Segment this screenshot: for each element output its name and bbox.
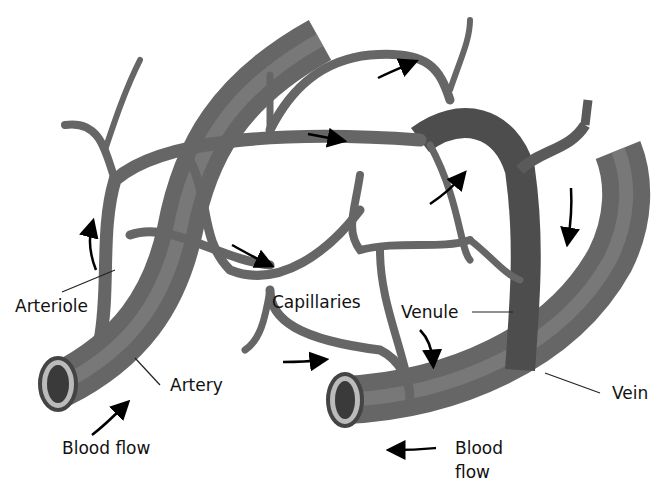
vessel-illustration: [0, 0, 664, 494]
label-vein: Vein: [612, 383, 648, 403]
arrow-arteriole-up: [90, 225, 96, 270]
label-blood-flow-left: Blood flow: [62, 438, 150, 458]
arrow-vein-down: [568, 188, 571, 240]
arrow-flow-out: [393, 448, 436, 450]
label-arteriole: Arteriole: [15, 296, 88, 316]
label-venule: Venule: [401, 302, 459, 322]
label-blood-flow-right-1: Blood: [455, 438, 503, 458]
label-capillaries: Capillaries: [272, 292, 361, 312]
label-artery: Artery: [170, 375, 223, 395]
vein: [328, 150, 626, 426]
label-blood-flow-right-2: flow: [455, 462, 490, 482]
arrow-bottom-right: [283, 360, 322, 362]
arrow-top-right: [378, 63, 412, 78]
arrow-flow-in: [92, 405, 125, 435]
artery: [40, 40, 320, 410]
arrow-venule-down: [420, 330, 433, 362]
